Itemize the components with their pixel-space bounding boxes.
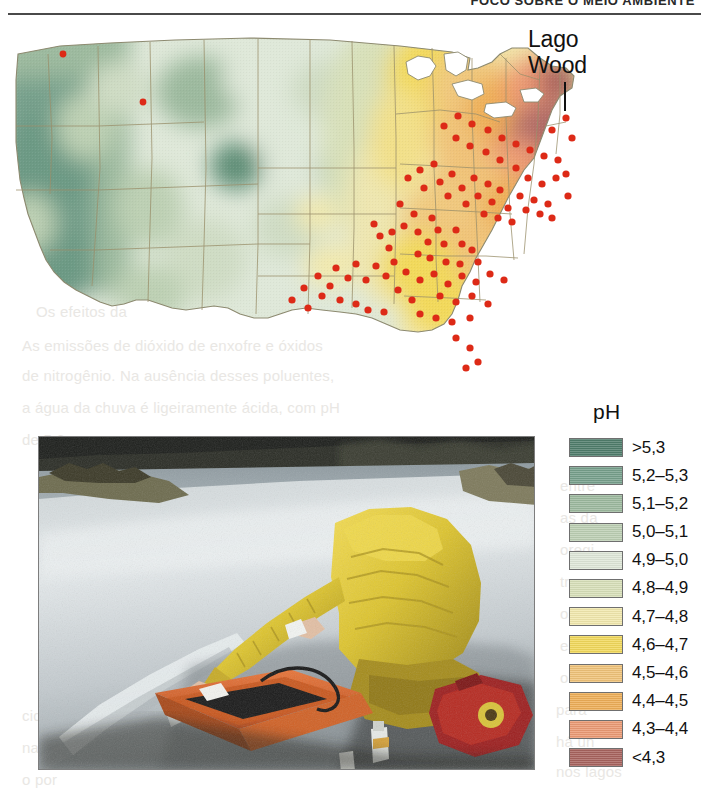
legend-entry: 4,6–4,7 (569, 633, 709, 656)
legend-entry: 4,4–4,5 (569, 690, 709, 713)
lago-wood-callout: Lago Wood (528, 26, 587, 78)
legend-label: 4,7–4,8 (632, 607, 688, 627)
callout-line-2: Wood (528, 52, 587, 78)
legend-swatch (569, 494, 623, 513)
legend-swatch (569, 551, 623, 570)
legend-label: 4,3–4,4 (632, 719, 688, 739)
legend-label: 4,9–5,0 (632, 550, 688, 570)
legend-swatch (569, 635, 623, 654)
legend-entry: 4,9–5,0 (569, 549, 709, 572)
callout-leader-line (564, 82, 566, 111)
legend-label: 5,0–5,1 (632, 522, 688, 542)
legend-entry: 5,0–5,1 (569, 521, 709, 544)
legend-entry: 5,2–5,3 (569, 464, 709, 487)
legend-entry: >5,3 (569, 436, 709, 459)
legend-entry: 4,8–4,9 (569, 577, 709, 600)
legend-entry: 4,7–4,8 (569, 605, 709, 628)
legend-swatch (569, 664, 623, 683)
legend-entry: 4,5–4,6 (569, 662, 709, 685)
legend-swatch (569, 438, 623, 457)
legend-label: 4,6–4,7 (632, 635, 688, 655)
precipitation-ph-map (0, 18, 600, 408)
legend-entry: 5,1–5,2 (569, 492, 709, 515)
legend-label: <4,3 (632, 748, 665, 768)
legend-swatch (569, 692, 623, 711)
legend-label: 4,8–4,9 (632, 578, 688, 598)
legend-swatch (569, 748, 623, 767)
legend-label: 5,1–5,2 (632, 494, 688, 514)
legend-label: >5,3 (632, 438, 665, 458)
legend-label: 5,2–5,3 (632, 466, 688, 486)
legend-swatch (569, 466, 623, 485)
legend-entry: <4,3 (569, 746, 709, 769)
legend-rows: >5,35,2–5,35,1–5,25,0–5,14,9–5,04,8–4,94… (569, 436, 709, 769)
legend-label: 4,4–4,5 (632, 691, 688, 711)
legend-entry: 4,3–4,4 (569, 718, 709, 741)
legend-title: pH (593, 400, 709, 424)
ph-legend: pH >5,35,2–5,35,1–5,25,0–5,14,9–5,04,8–4… (569, 400, 709, 774)
running-head: FOCO SOBRE O MEIO AMBIENTE (0, 0, 709, 8)
field-sampling-photo (38, 436, 535, 770)
legend-label: 4,5–4,6 (632, 663, 688, 683)
callout-line-1: Lago (528, 26, 587, 52)
legend-swatch (569, 607, 623, 626)
header-rule-divider (8, 13, 701, 15)
legend-swatch (569, 523, 623, 542)
legend-swatch (569, 579, 623, 598)
legend-swatch (569, 720, 623, 739)
